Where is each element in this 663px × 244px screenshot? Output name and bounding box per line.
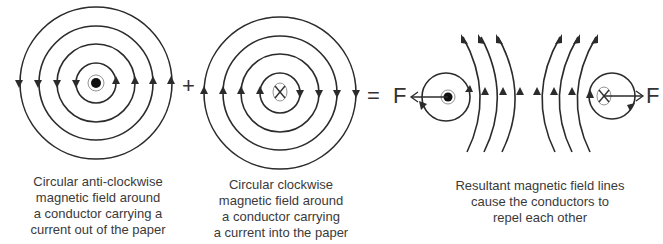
current-in-cross-icon: [275, 86, 285, 98]
left-force-arrow: [411, 92, 448, 102]
caption-anticlockwise: Circular anti-clockwise magnetic field a…: [18, 174, 178, 238]
plus-operator: +: [182, 75, 195, 97]
equals-operator: =: [367, 85, 380, 107]
current-out-dot-icon: [91, 78, 101, 88]
force-label-left: F: [393, 85, 406, 107]
right-force-arrow: [604, 91, 643, 101]
resultant-field-arrows: [461, 34, 598, 95]
caption-resultant: Resultant magnetic field lines cause the…: [440, 178, 640, 226]
force-label-right: F: [646, 85, 659, 107]
caption-clockwise: Circular clockwise magnetic field around…: [206, 177, 356, 241]
